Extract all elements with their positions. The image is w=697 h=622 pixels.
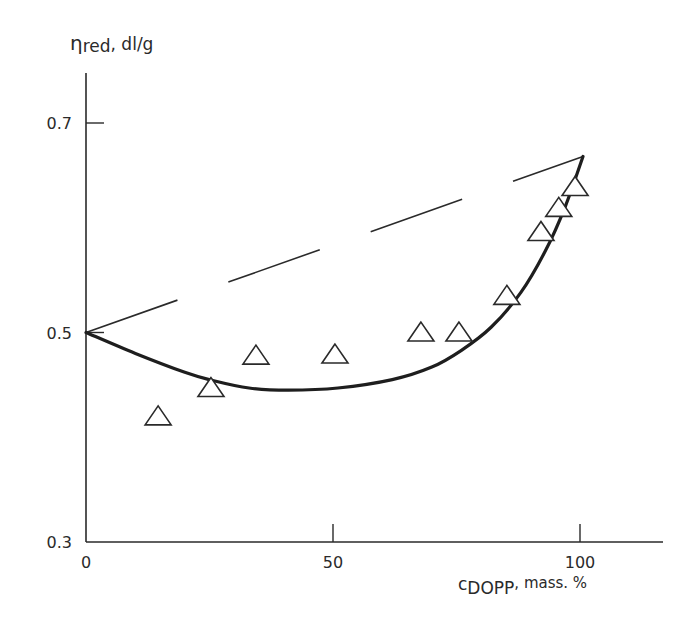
y-tick-label: 0.5 [47,324,72,343]
triangle-marker-icon [494,285,520,304]
y-tick-label: 0.7 [47,114,72,133]
y-axis-label: ηred, dl/g [70,31,153,56]
triangle-marker-icon [408,322,434,341]
triangle-marker-icon [145,406,171,425]
x-tick-label: 0 [81,553,91,572]
triangle-marker-icon [198,378,224,397]
data-markers [145,176,588,424]
axis-labels: ηred, dl/g cDOPP, mass. % [70,31,587,598]
axes: 0.30.50.7050100 [47,73,663,572]
triangle-marker-icon [528,221,554,240]
triangle-marker-icon [243,345,269,364]
y-tick-label: 0.3 [47,533,72,552]
x-axis-label: cDOPP, mass. % [458,574,587,598]
chart: 0.30.50.7050100 ηred, dl/g cDOPP, mass. … [0,0,697,622]
x-tick-label: 50 [323,553,343,572]
triangle-marker-icon [322,344,348,363]
triangle-marker-icon [562,176,588,195]
triangle-marker-icon [446,322,472,341]
x-tick-label: 100 [565,553,596,572]
